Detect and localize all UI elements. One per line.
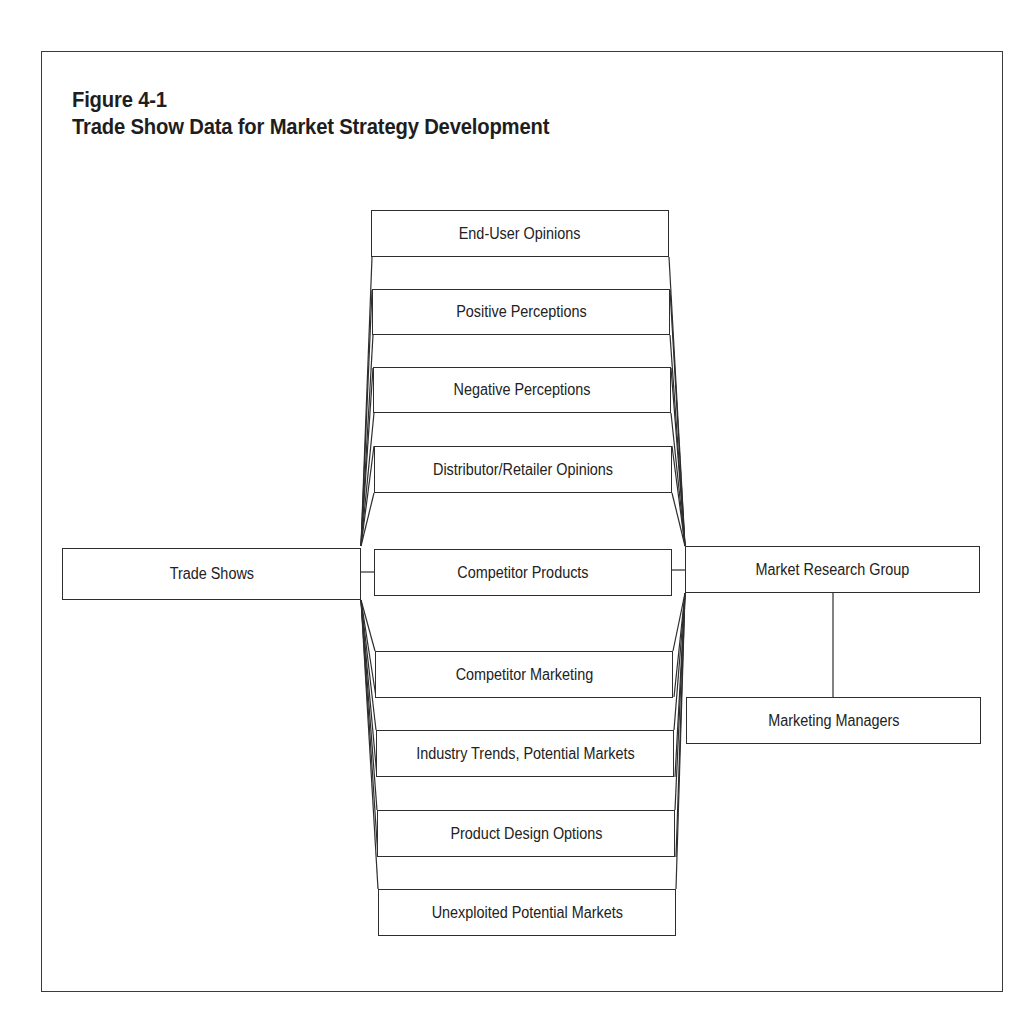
industry-trends-node: Industry Trends, Potential Markets: [376, 730, 674, 777]
market-research-group-node: Market Research Group: [685, 546, 980, 593]
node-label: Product Design Options: [450, 825, 602, 843]
node-label: Positive Perceptions: [456, 303, 586, 321]
competitor-marketing-node: Competitor Marketing: [375, 651, 673, 698]
node-label: Negative Perceptions: [454, 381, 591, 399]
marketing-managers-node: Marketing Managers: [686, 697, 981, 744]
figure-heading: Figure 4-1 Trade Show Data for Market St…: [72, 86, 549, 140]
node-label: End-User Opinions: [459, 225, 581, 243]
node-label: Industry Trends, Potential Markets: [416, 745, 635, 763]
product-design-options-node: Product Design Options: [377, 810, 675, 857]
distributor-retailer-opinions-node: Distributor/Retailer Opinions: [374, 446, 672, 493]
competitor-products-node: Competitor Products: [374, 549, 672, 596]
trade-shows-node: Trade Shows: [62, 548, 361, 600]
node-label: Competitor Marketing: [455, 666, 593, 684]
node-label: Marketing Managers: [768, 712, 899, 730]
unexploited-potential-markets-node: Unexploited Potential Markets: [378, 889, 676, 936]
end-user-opinions-node: End-User Opinions: [371, 210, 669, 257]
trade-shows-label: Trade Shows: [169, 565, 253, 583]
figure-label: Figure 4-1: [72, 86, 549, 113]
positive-perceptions-node: Positive Perceptions: [372, 289, 670, 335]
node-label: Distributor/Retailer Opinions: [433, 461, 613, 479]
figure-title: Trade Show Data for Market Strategy Deve…: [72, 113, 549, 140]
node-label: Unexploited Potential Markets: [431, 904, 622, 922]
negative-perceptions-node: Negative Perceptions: [373, 367, 671, 413]
node-label: Market Research Group: [756, 561, 910, 579]
node-label: Competitor Products: [457, 564, 588, 582]
